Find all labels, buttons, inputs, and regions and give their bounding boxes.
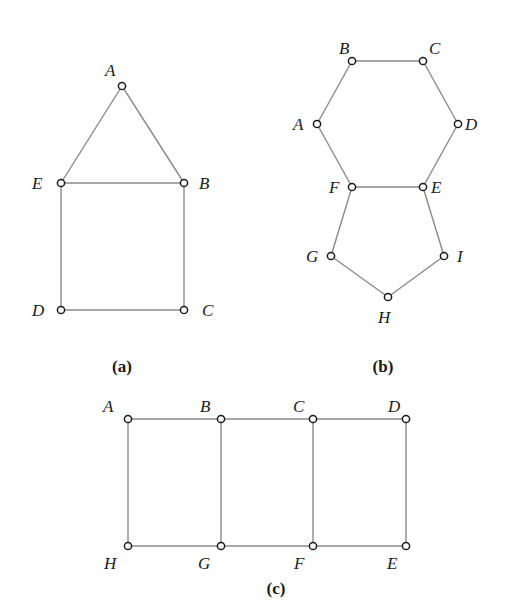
graph-c: ABCDHGFE(c) [102, 397, 410, 598]
vertex-label: H [103, 554, 118, 573]
vertex-label: B [339, 39, 350, 58]
vertex-label: H [377, 308, 392, 327]
edge-b-BA [317, 61, 352, 124]
vertex-a-A [118, 82, 125, 89]
vertex-label: A [102, 397, 114, 416]
vertex-label: G [306, 247, 318, 266]
vertex-label: E [31, 174, 43, 193]
vertex-c-G [217, 542, 224, 549]
vertex-b-H [384, 293, 391, 300]
vertex-label: F [328, 178, 340, 197]
vertex-label: B [200, 397, 211, 416]
vertex-a-D [57, 306, 64, 313]
graph-b: BCADFEGIH(b) [292, 39, 478, 376]
vertex-a-B [180, 179, 187, 186]
caption-c: (c) [267, 579, 286, 598]
vertex-c-A [124, 415, 131, 422]
vertex-b-F [348, 183, 355, 190]
caption-b: (b) [373, 357, 394, 376]
vertex-label: C [293, 397, 305, 416]
vertex-c-E [402, 542, 409, 549]
vertex-b-D [454, 120, 461, 127]
vertex-label: I [456, 247, 464, 266]
vertex-a-C [180, 306, 187, 313]
vertex-c-B [217, 415, 224, 422]
vertex-label: D [387, 397, 401, 416]
vertex-c-D [402, 415, 409, 422]
vertex-b-C [419, 57, 426, 64]
edge-b-GH [331, 256, 388, 297]
vertex-label: A [104, 61, 116, 80]
edge-b-IH [388, 256, 444, 297]
vertex-c-H [124, 542, 131, 549]
edge-a-AB [122, 86, 184, 183]
vertex-b-G [327, 252, 334, 259]
vertex-label: G [198, 554, 210, 573]
vertex-b-B [348, 57, 355, 64]
vertex-b-A [313, 120, 320, 127]
graph-a: AEBDC(a) [31, 61, 214, 376]
vertex-label: B [199, 174, 210, 193]
vertex-label: D [464, 115, 478, 134]
edge-b-CD [423, 61, 458, 124]
vertex-label: F [293, 554, 305, 573]
vertex-a-E [57, 179, 64, 186]
edge-b-EI [423, 187, 444, 256]
vertex-label: E [430, 178, 442, 197]
vertex-label: C [429, 39, 441, 58]
edge-b-FG [331, 187, 352, 256]
vertex-c-F [309, 542, 316, 549]
vertex-label: C [202, 301, 214, 320]
graph-figure: AEBDC(a) BCADFEGIH(b) ABCDHGFE(c) [0, 0, 514, 606]
vertex-label: E [386, 554, 398, 573]
caption-a: (a) [112, 357, 132, 376]
vertex-c-C [309, 415, 316, 422]
vertex-b-E [419, 183, 426, 190]
vertex-b-I [440, 252, 447, 259]
vertex-label: A [292, 115, 304, 134]
vertex-label: D [31, 301, 45, 320]
edge-a-AE [61, 86, 122, 183]
